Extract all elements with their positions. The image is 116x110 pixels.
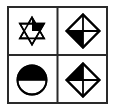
symbol-matrix-figure: Star of David Diamond divided into four … bbox=[0, 0, 116, 110]
symbol-matrix-svg: Star of David Diamond divided into four … bbox=[0, 0, 116, 110]
cell-bottom-left: Circle split horizontally bbox=[18, 66, 47, 95]
